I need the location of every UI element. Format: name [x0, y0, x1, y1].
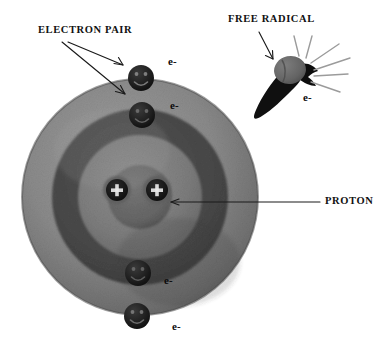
electron-label-free-radical: e- [303, 92, 312, 103]
electron-pair-label: ELECTRON PAIR [38, 25, 132, 36]
electron-label-outer-top: e- [168, 56, 177, 67]
electron-label-inner-bottom: e- [164, 275, 173, 286]
free-radical-group [254, 36, 350, 119]
free-radical-label: FREE RADICAL [228, 14, 315, 25]
electron-shell-inner-top [129, 102, 155, 128]
proton-label: PROTON [325, 196, 373, 207]
proton-right [143, 176, 171, 204]
electron-shell-inner-bottom [125, 260, 151, 286]
electron-label-outer-bottom: e- [172, 321, 181, 332]
free-radical-arrow [259, 32, 273, 59]
electron-pair-arrow-2 [62, 42, 125, 94]
electron-shell-outer-bottom [124, 303, 150, 329]
atom-diagram-svg [0, 0, 388, 357]
proton-left [103, 176, 131, 204]
electron-label-inner-top: e- [170, 100, 179, 111]
diagram-canvas: ELECTRON PAIR FREE RADICAL PROTON e- e- … [0, 0, 388, 357]
electron-shell-outer-top [128, 65, 154, 91]
